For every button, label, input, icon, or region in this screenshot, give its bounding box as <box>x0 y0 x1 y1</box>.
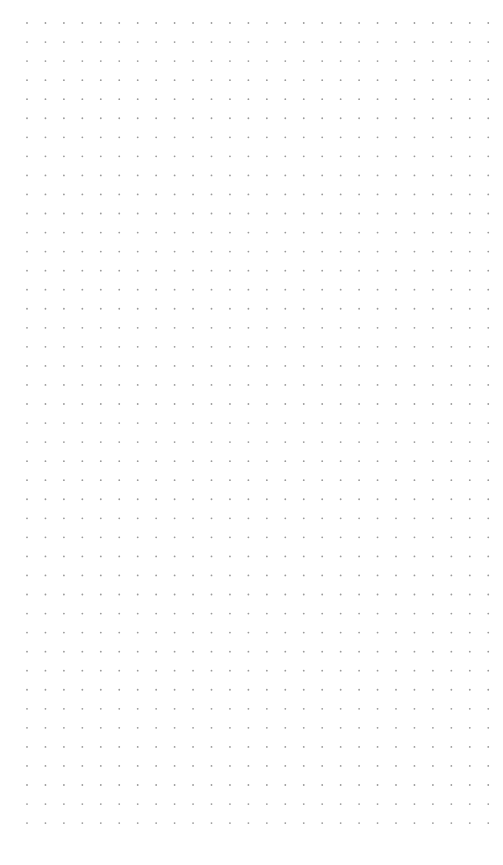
grid-dot <box>211 308 213 310</box>
grid-dot <box>26 289 28 291</box>
grid-dot <box>321 441 323 443</box>
grid-dot <box>155 384 157 386</box>
grid-dot <box>377 765 379 767</box>
grid-dot <box>137 689 139 691</box>
grid-dot <box>487 194 489 196</box>
grid-dot <box>192 517 194 519</box>
grid-dot <box>340 60 342 62</box>
grid-dot <box>450 136 452 138</box>
grid-dot <box>137 651 139 653</box>
grid-dot <box>174 479 176 481</box>
grid-dot <box>284 822 286 824</box>
grid-dot <box>340 765 342 767</box>
grid-dot <box>45 746 47 748</box>
grid-dot <box>229 117 231 119</box>
grid-dot <box>432 98 434 100</box>
grid-dot <box>174 194 176 196</box>
grid-dot <box>81 594 83 596</box>
grid-dot <box>118 365 120 367</box>
grid-dot <box>487 746 489 748</box>
grid-dot <box>432 765 434 767</box>
grid-dot <box>155 327 157 329</box>
grid-dot <box>395 803 397 805</box>
grid-dot <box>192 60 194 62</box>
grid-dot <box>284 708 286 710</box>
grid-dot <box>414 308 416 310</box>
grid-dot <box>26 308 28 310</box>
grid-dot <box>229 41 231 43</box>
grid-dot <box>358 651 360 653</box>
grid-dot <box>487 384 489 386</box>
grid-dot <box>229 384 231 386</box>
grid-dot <box>284 327 286 329</box>
grid-dot <box>174 41 176 43</box>
grid-dot <box>450 517 452 519</box>
grid-dot <box>26 594 28 596</box>
grid-dot <box>284 384 286 386</box>
grid-dot <box>432 784 434 786</box>
grid-dot <box>358 155 360 157</box>
grid-dot <box>284 251 286 253</box>
grid-dot <box>358 689 360 691</box>
grid-dot <box>469 822 471 824</box>
grid-dot <box>211 632 213 634</box>
grid-dot <box>487 60 489 62</box>
grid-dot <box>469 327 471 329</box>
grid-dot <box>377 403 379 405</box>
grid-dot <box>395 60 397 62</box>
grid-dot <box>174 232 176 234</box>
grid-dot <box>26 441 28 443</box>
grid-dot <box>63 327 65 329</box>
grid-dot <box>450 194 452 196</box>
grid-dot <box>118 613 120 615</box>
grid-dot <box>229 632 231 634</box>
grid-dot <box>63 346 65 348</box>
grid-dot <box>303 384 305 386</box>
grid-dot <box>450 765 452 767</box>
grid-dot <box>284 365 286 367</box>
grid-dot <box>321 194 323 196</box>
grid-dot <box>118 784 120 786</box>
grid-dot <box>192 632 194 634</box>
grid-dot <box>229 765 231 767</box>
grid-dot <box>340 194 342 196</box>
grid-dot <box>229 460 231 462</box>
grid-dot <box>137 556 139 558</box>
grid-dot <box>432 575 434 577</box>
grid-dot <box>395 575 397 577</box>
grid-dot <box>100 498 102 500</box>
grid-dot <box>63 822 65 824</box>
grid-dot <box>26 670 28 672</box>
grid-dot <box>377 117 379 119</box>
grid-dot <box>229 346 231 348</box>
grid-dot <box>211 422 213 424</box>
grid-dot <box>137 517 139 519</box>
grid-dot <box>211 22 213 24</box>
grid-dot <box>321 213 323 215</box>
grid-dot <box>45 594 47 596</box>
grid-dot <box>284 422 286 424</box>
grid-dot <box>229 670 231 672</box>
grid-dot <box>63 22 65 24</box>
grid-dot <box>63 651 65 653</box>
grid-dot <box>414 60 416 62</box>
grid-dot <box>303 460 305 462</box>
grid-dot <box>377 441 379 443</box>
grid-dot <box>487 536 489 538</box>
grid-dot <box>432 384 434 386</box>
grid-dot <box>450 308 452 310</box>
grid-dot <box>229 327 231 329</box>
grid-dot <box>395 746 397 748</box>
grid-dot <box>340 270 342 272</box>
grid-dot <box>377 632 379 634</box>
grid-dot <box>229 175 231 177</box>
grid-dot <box>174 213 176 215</box>
grid-dot <box>469 98 471 100</box>
grid-dot <box>155 308 157 310</box>
grid-dot <box>377 803 379 805</box>
grid-dot <box>155 651 157 653</box>
grid-dot <box>340 98 342 100</box>
grid-dot <box>450 365 452 367</box>
grid-dot <box>26 460 28 462</box>
grid-dot <box>63 594 65 596</box>
